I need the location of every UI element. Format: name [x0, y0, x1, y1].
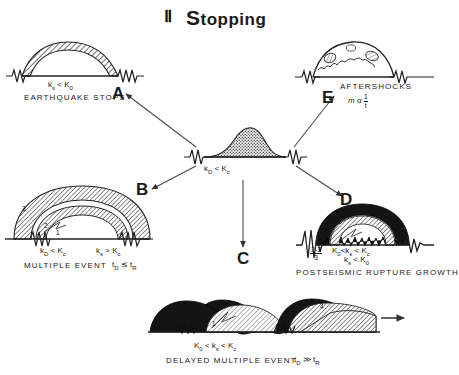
arrow-to-a [126, 94, 196, 147]
panel-e-fraction: 1t [364, 93, 368, 109]
panel-d-frac: 2-33 [310, 246, 322, 261]
panel-b-layer-2: 2 [44, 222, 48, 229]
panel-e-formula: m α 1t [348, 93, 368, 109]
panel-label-b: B [136, 180, 148, 200]
panel-a-figure [6, 42, 144, 82]
title-rest: topping [201, 10, 267, 29]
panel-b-layer-3: 3 [22, 205, 26, 212]
connector-arrows [126, 94, 342, 247]
panel-f-layer-4: 4 [320, 303, 324, 310]
panel-d-fraction: 2-33 [310, 246, 322, 261]
panel-d-equation-2: ks < K0 [344, 255, 369, 266]
page-title: Stopping [186, 6, 266, 30]
arrow-to-d [296, 166, 342, 196]
arrow-to-b [152, 166, 196, 189]
panel-e-caption: AFTERSHOCKS [340, 82, 412, 91]
panel-b-equation-1: kD < Kc [40, 246, 66, 257]
panel-d-caption: POSTSEISMIC RUPTURE GROWTH [296, 268, 459, 277]
panel-b-figure [5, 186, 153, 246]
hub-figure [184, 128, 307, 164]
hub-equation: kD < Kc [204, 164, 230, 175]
panel-b-time-relation: tD ≲ tR [112, 260, 137, 271]
panel-f-layer-2: 2 [200, 312, 204, 319]
panel-e-figure [295, 42, 434, 83]
panel-label-e: E [322, 88, 333, 108]
title-initial: S [186, 6, 201, 29]
panel-b-equation-2: ks > Kc [96, 246, 120, 257]
panel-f-layer-1: 1 [212, 320, 216, 327]
title-roman-numeral: Ⅱ [164, 6, 173, 27]
panel-a-caption: EARTHQUAKE STOPS [24, 93, 126, 102]
panel-f-layer-3: 3 [177, 312, 181, 319]
panel-a-equation: ks < K0 [48, 80, 73, 91]
panel-f-time-relation: tD ≫ tR [294, 355, 320, 366]
panel-label-d: D [340, 190, 352, 210]
panel-f-equation: K0 < ks < Kc [194, 341, 236, 352]
panel-f-figure [148, 299, 404, 334]
panel-b-layer-1: 1 [56, 229, 60, 236]
panel-b-caption: MULTIPLE EVENT [24, 261, 107, 270]
panel-d-layer-3: 3 [338, 218, 342, 225]
panel-label-c: C [237, 249, 249, 269]
panel-f-caption: DELAYED MULTIPLE EVENT [166, 356, 297, 365]
